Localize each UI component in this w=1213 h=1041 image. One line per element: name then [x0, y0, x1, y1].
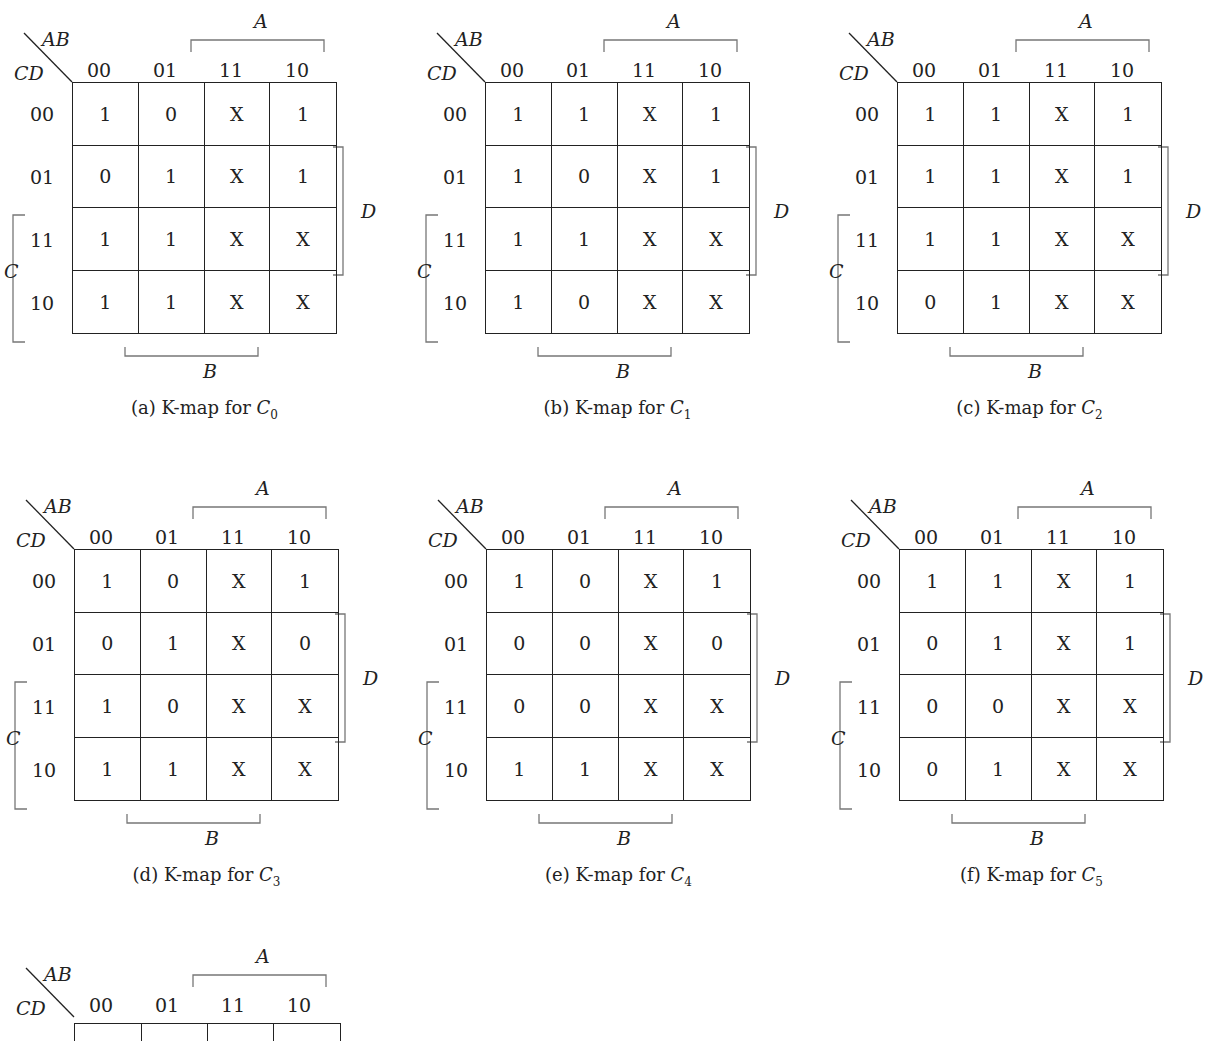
bracket-b — [950, 347, 1083, 356]
var-d-label: D — [1188, 669, 1203, 688]
caption-var: C — [1082, 864, 1096, 885]
kmap-cell: 1 — [487, 738, 553, 801]
col-header-11: 11 — [612, 526, 678, 548]
col-var-label: AB — [42, 30, 70, 49]
kmap-cell: X — [618, 83, 684, 146]
caption-var: C — [670, 397, 684, 418]
var-a-label: A — [256, 479, 270, 498]
col-var-label: AB — [44, 497, 72, 516]
row-var-label: CD — [14, 64, 44, 83]
caption-subscript: 2 — [1095, 408, 1103, 422]
kmap-cell: 1 — [75, 738, 141, 801]
kmap-cell: X — [619, 550, 685, 613]
caption-text: (a) K-map for — [131, 397, 257, 418]
var-b-label: B — [205, 829, 219, 848]
kmap-grid: 10X101X111XX11XX — [72, 82, 337, 334]
row-header-00: 00 — [22, 103, 62, 125]
var-c-label: C — [418, 729, 433, 748]
caption-text: (b) K-map for — [544, 397, 670, 418]
row-header-01: 01 — [436, 633, 476, 655]
kmap-cell: 1 — [270, 83, 336, 146]
kmap-cell: 0 — [487, 675, 553, 738]
col-header-10: 10 — [266, 526, 332, 548]
kmap-cell: 0 — [553, 613, 619, 676]
kmap-cell: 0 — [552, 146, 618, 209]
kmap-cell: X — [618, 146, 684, 209]
col-header-10: 10 — [266, 994, 332, 1016]
kmap-cell: 0 — [552, 271, 618, 334]
row-header-00: 00 — [24, 570, 64, 592]
kmap-cell: 1 — [141, 613, 207, 676]
kmap-cell: X — [205, 146, 271, 209]
col-header-11: 11 — [611, 59, 677, 81]
kmap-cell: 0 — [900, 613, 966, 676]
var-a-label: A — [256, 947, 270, 966]
var-b-label: B — [203, 362, 217, 381]
kmap-cell: X — [1032, 738, 1098, 801]
row-header-00: 00 — [847, 103, 887, 125]
kmap-1: ABCDABCD000111100001111011X110X111XX10XX… — [413, 0, 813, 440]
kmap-caption: (b) K-map for C1 — [485, 397, 750, 422]
kmap-caption: (f) K-map for C5 — [899, 864, 1164, 889]
caption-text: (c) K-map for — [956, 397, 1081, 418]
kmap-cell: 0 — [684, 613, 750, 676]
var-a-label: A — [667, 12, 681, 31]
bracket-a — [1016, 40, 1149, 52]
col-header-00: 00 — [891, 59, 957, 81]
var-a-label: A — [668, 479, 682, 498]
col-header-00: 00 — [479, 59, 545, 81]
kmap-cell: X — [684, 675, 750, 738]
row-header-11: 11 — [435, 229, 475, 251]
row-var-label: CD — [16, 999, 46, 1018]
kmap-cell: 1 — [139, 146, 205, 209]
kmap-cell: X — [683, 208, 749, 271]
kmap-cell: 1 — [75, 675, 141, 738]
kmap-grid: 11X101X100XX01XX — [899, 549, 1164, 801]
kmap-cell: 1 — [552, 83, 618, 146]
row-header-01: 01 — [435, 166, 475, 188]
kmap-cell: 1 — [966, 550, 1032, 613]
row-header-00: 00 — [435, 103, 475, 125]
kmap-cell: 1 — [486, 271, 552, 334]
kmap-cell: 0 — [141, 550, 207, 613]
col-var-label: AB — [867, 30, 895, 49]
kmap-cell: X — [1097, 738, 1163, 801]
col-header-11: 11 — [200, 994, 266, 1016]
col-var-label: AB — [455, 30, 483, 49]
var-a-label: A — [1079, 12, 1093, 31]
kmap-cell: 1 — [898, 146, 964, 209]
caption-subscript: 0 — [270, 408, 278, 422]
grid-divider — [273, 1024, 274, 1041]
kmap-cell: X — [205, 83, 271, 146]
var-b-label: B — [1028, 362, 1042, 381]
row-header-11: 11 — [436, 696, 476, 718]
grid-divider — [141, 1024, 142, 1041]
kmap-cell: 1 — [684, 550, 750, 613]
kmap-4: ABCDABCD000111100001111010X100X000XX11XX… — [414, 467, 814, 907]
kmap-cell: 1 — [553, 738, 619, 801]
kmap-cell: 1 — [141, 738, 207, 801]
bracket-a — [605, 507, 738, 519]
kmap-cell: 1 — [73, 271, 139, 334]
var-d-label: D — [1186, 202, 1201, 221]
col-header-10: 10 — [678, 526, 744, 548]
kmap-cell: 1 — [486, 146, 552, 209]
caption-var: C — [257, 397, 271, 418]
kmap-caption: (d) K-map for C3 — [74, 864, 339, 889]
kmap-grid: 10X100X000XX11XX — [486, 549, 751, 801]
kmap-caption: (c) K-map for C2 — [897, 397, 1162, 422]
kmap-cell: X — [207, 675, 273, 738]
row-header-11: 11 — [22, 229, 62, 251]
bracket-b — [539, 814, 672, 823]
kmap-cell: 0 — [272, 613, 338, 676]
kmap-cell: 1 — [270, 146, 336, 209]
caption-subscript: 4 — [684, 875, 692, 889]
caption-text: (d) K-map for — [133, 864, 259, 885]
row-var-label: CD — [16, 531, 46, 550]
kmap-grid: 10X101X010XX11XX — [74, 549, 339, 801]
kmap-cell: X — [205, 208, 271, 271]
kmap-cell: 1 — [139, 208, 205, 271]
bracket-a — [193, 507, 326, 519]
col-header-10: 10 — [677, 59, 743, 81]
col-header-00: 00 — [480, 526, 546, 548]
